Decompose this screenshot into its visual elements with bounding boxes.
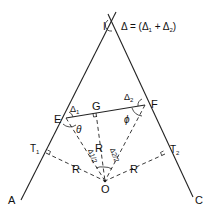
label-point-t1: T1 xyxy=(30,143,40,155)
label-point-f: F xyxy=(151,98,158,110)
label-point-g: G xyxy=(92,100,101,112)
label-angle-theta: θ xyxy=(76,124,82,135)
formula-text: Δ = (Δ1 + Δ2) xyxy=(121,21,176,33)
label-point-e: E xyxy=(54,113,61,125)
label-point-c: C xyxy=(195,194,203,206)
angle-arc-o-right xyxy=(104,167,112,169)
angle-arc-phi xyxy=(132,108,142,116)
label-half-delta2: Δ2/2 xyxy=(109,147,121,163)
label-point-a: A xyxy=(8,194,16,206)
angle-arc-delta2 xyxy=(138,99,142,106)
label-point-t2: T2 xyxy=(170,144,180,156)
label-angle-phi: ϕ xyxy=(124,114,130,125)
angle-arc-o-left xyxy=(96,167,104,168)
label-angle-delta1: Δ1 xyxy=(70,104,80,115)
curve-geometry-diagram: I Δ = (Δ1 + Δ2) Δ1 Δ2 E G F O A C T1 T2 … xyxy=(0,0,211,217)
center-point-o xyxy=(104,180,107,183)
label-point-o: O xyxy=(101,183,110,195)
label-angle-delta2: Δ2 xyxy=(124,92,134,103)
tangent-line-left xyxy=(21,12,116,200)
label-radius-right: R xyxy=(130,163,138,175)
label-radius-left: R xyxy=(72,163,80,175)
label-point-i: I xyxy=(103,21,106,32)
